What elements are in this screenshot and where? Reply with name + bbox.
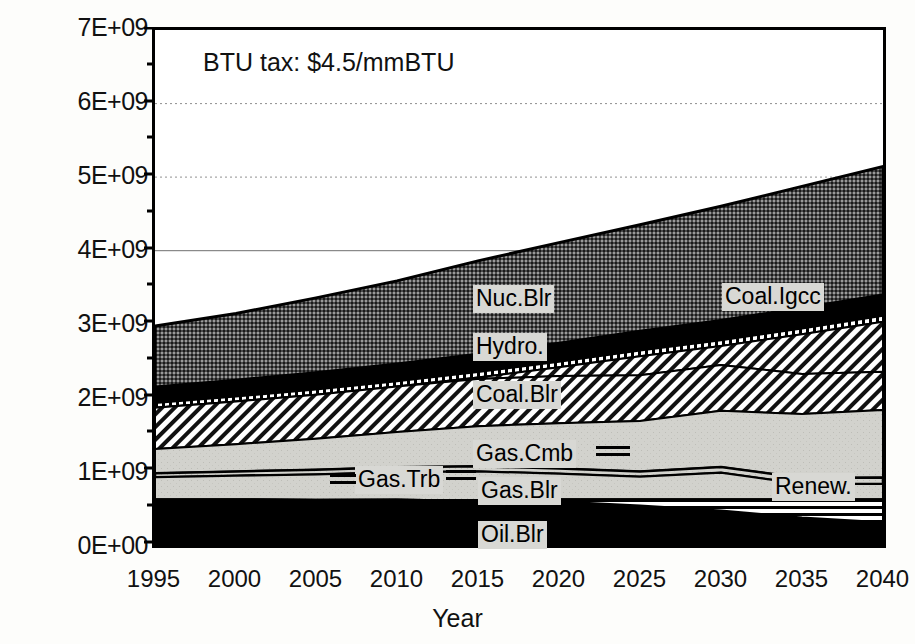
- y-tick-label: 6E+09: [78, 87, 149, 116]
- x-tick-label: 2030: [683, 565, 758, 593]
- x-tick-label: 2040: [845, 565, 915, 593]
- series-label-gas-cmb: Gas.Cmb: [473, 440, 576, 468]
- y-tick-label: 2E+09: [78, 383, 149, 412]
- leader-line-gas-cmb2: [596, 453, 630, 456]
- leader-line-gas-trb-right: [446, 470, 476, 473]
- series-label-coal-igcc: Coal.Igcc: [722, 283, 824, 311]
- y-tick-marks: [140, 27, 156, 552]
- y-tick-label: 5E+09: [78, 161, 149, 190]
- x-axis-title: Year: [0, 604, 915, 633]
- x-tick-label: 2025: [602, 565, 677, 593]
- leader-line-gas-trb-left2: [330, 481, 356, 484]
- btu-tax-annotation: BTU tax: $4.5/mmBTU: [203, 48, 454, 77]
- y-tick-label: 1E+09: [78, 457, 149, 486]
- leader-line-gas-trb-right2: [446, 477, 476, 480]
- y-tick-label: 4E+09: [78, 235, 149, 264]
- leader-line-gas-trb-left: [330, 474, 356, 477]
- y-axis-tick-labels: 7E+09 6E+09 5E+09 4E+09 3E+09 2E+09 1E+0…: [0, 0, 148, 644]
- series-label-hydro: Hydro.: [473, 333, 547, 361]
- series-label-renew: Renew.: [772, 473, 855, 501]
- series-label-coal-blr: Coal.Blr: [473, 381, 561, 409]
- x-tick-label: 2005: [278, 565, 353, 593]
- y-tick-label: 3E+09: [78, 309, 149, 338]
- series-label-gas-trb: Gas.Trb: [355, 466, 443, 494]
- x-tick-label: 2015: [440, 565, 515, 593]
- y-tick-label: 7E+09: [78, 13, 149, 42]
- x-tick-label: 2020: [521, 565, 596, 593]
- x-tick-label: 2000: [197, 565, 272, 593]
- x-tick-label: 2035: [764, 565, 839, 593]
- x-tick-label: 2010: [359, 565, 434, 593]
- series-label-oil-blr: Oil.Blr: [478, 521, 547, 549]
- series-label-nuc-blr: Nuc.Blr: [473, 285, 554, 313]
- x-tick-label: 1995: [116, 565, 191, 593]
- chart-figure: 7E+09 6E+09 5E+09 4E+09 3E+09 2E+09 1E+0…: [0, 0, 915, 644]
- series-label-gas-blr: Gas.Blr: [478, 477, 561, 505]
- leader-line-gas-cmb: [596, 446, 630, 449]
- y-tick-label: 0E+00: [78, 531, 149, 560]
